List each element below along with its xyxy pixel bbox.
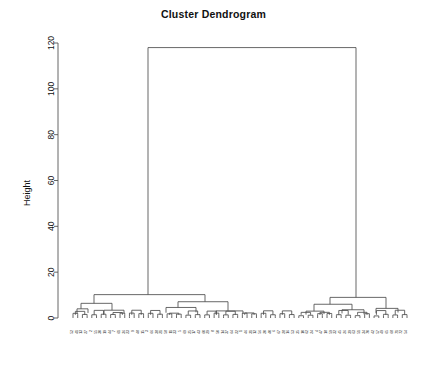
leaf-label: 1 [239,330,243,332]
leaf-label: 8 [211,330,215,332]
leaf-label: 60 [202,330,206,334]
leaf-label: 46 [244,330,248,334]
svg-text:80: 80 [46,130,56,140]
leaf-label: 32 [333,330,337,334]
leaf-label: 25 [188,330,192,334]
leaf-label: 41 [75,330,79,334]
leaf-label: 71 [395,330,399,334]
leaf-label: 33 [173,330,177,334]
leaf-label: 6 [272,330,276,332]
svg-text:0: 0 [46,315,56,320]
dendrogram-plot: Cluster Dendrogram Height 02040608010012… [0,0,427,386]
svg-text:40: 40 [46,221,56,231]
y-axis: 020406080100120 [46,36,58,321]
leaf-label: 35 [296,330,300,334]
dendrogram-tree [73,48,407,318]
leaf-label: 4 [315,330,319,332]
leaf-label: 43 [197,330,201,334]
leaf-label: 61 [117,330,121,334]
leaf-label: 51 [357,330,361,334]
svg-text:100: 100 [46,81,56,95]
leaf-label: 62 [305,330,309,334]
leaf-label: 56 [258,330,262,334]
leaf-label: 53 [291,330,295,334]
leaf-label: 59 [329,330,333,334]
leaf-label: 29 [206,330,210,334]
leaf-label: 14 [221,330,225,334]
leaf-label: 20 [263,330,267,334]
leaf-label: 50 [216,330,220,334]
leaf-label: 34 [362,330,366,334]
leaf-label: 36 [122,330,126,334]
leaf-label: 52 [70,330,74,334]
leaf-label: 70 [366,330,370,334]
leaf-label: 47 [319,330,323,334]
dendrogram-canvas: 020406080100120 524113272553019447613623… [0,0,427,386]
leaf-label: 3 [145,330,149,332]
leaf-label: 45 [338,330,342,334]
leaf-label: 11 [169,330,173,334]
svg-text:120: 120 [46,36,56,50]
leaf-label: 67 [277,330,281,334]
leaf-label: 72 [399,330,403,334]
leaf-label: 7 [112,330,116,332]
leaf-label: 40 [268,330,272,334]
leaf-label: 27 [84,330,88,334]
leaf-label: 12 [253,330,257,334]
leaf-label: 28 [282,330,286,334]
leaf-label: 30 [98,330,102,334]
leaf-label: 17 [192,330,196,334]
leaf-label: 55 [94,330,98,334]
leaf-label: 57 [376,330,380,334]
svg-text:20: 20 [46,267,56,277]
leaf-label: 22 [235,330,239,334]
leaf-label: 37 [225,330,229,334]
leaf-label: 49 [380,330,384,334]
leaf-label: 69 [183,330,187,334]
leaf-label: 48 [136,330,140,334]
leaf-label: 19 [103,330,107,334]
leaf-label: 2 [89,330,93,332]
leaf-label: 68 [390,330,394,334]
leaf-label: 54 [404,330,408,334]
leaf-label: 42 [371,330,375,334]
leaf-label: 38 [155,330,159,334]
svg-text:60: 60 [46,176,56,186]
leaf-label: 10 [301,330,305,334]
leaf-label: 26 [343,330,347,334]
leaf-label: 39 [348,330,352,334]
leaf-label: 58 [164,330,168,334]
leaf-label: 21 [159,330,163,334]
leaf-label: 18 [324,330,328,334]
leaf-label: 9 [131,330,135,332]
leaf-label: 5 [178,330,182,332]
leaf-label: 44 [108,330,112,334]
x-axis-leaf-labels: 5241132725530194476136239481536638215811… [70,330,408,334]
leaf-label: 31 [249,330,253,334]
leaf-label: 64 [230,330,234,334]
leaf-label: 16 [286,330,290,334]
leaf-label: 65 [385,330,389,334]
leaf-label: 13 [79,330,83,334]
leaf-label: 15 [141,330,145,334]
leaf-label: 63 [352,330,356,334]
leaf-label: 66 [150,330,154,334]
leaf-label: 23 [126,330,130,334]
leaf-label: 24 [310,330,314,334]
